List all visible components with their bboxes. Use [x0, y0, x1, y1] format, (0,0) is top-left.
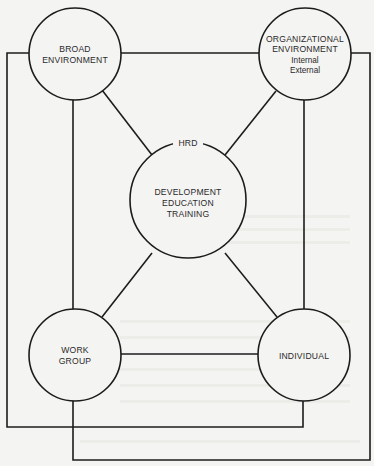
node-hrd-line1: DEVELOPMENT — [154, 187, 222, 197]
node-hrd: HRD DEVELOPMENT EDUCATION TRAINING — [130, 136, 246, 258]
node-organizational-environment: ORGANIZATIONAL ENVIRONMENT Internal Exte… — [259, 8, 351, 100]
node-broad-environment: BROAD ENVIRONMENT — [29, 8, 121, 100]
node-hrd-line3: TRAINING — [167, 209, 210, 219]
node-workgroup-line1: WORK — [61, 345, 89, 355]
node-org-line1: ORGANIZATIONAL — [266, 34, 344, 44]
node-work-group: WORK GROUP — [29, 309, 121, 401]
hrd-diagram: BROAD ENVIRONMENT ORGANIZATIONAL ENVIRON… — [0, 0, 374, 466]
edge-org-hrd — [225, 91, 276, 155]
node-workgroup-circle — [29, 309, 121, 401]
edge-hrd-workgroup — [102, 253, 152, 317]
node-hrd-label: HRD — [178, 138, 197, 148]
edge-org-workgroup-outer — [73, 53, 370, 460]
node-broad-line1: BROAD — [59, 44, 91, 54]
node-broad-circle — [29, 8, 121, 100]
node-org-sub2: External — [290, 66, 320, 75]
node-workgroup-line2: GROUP — [59, 356, 92, 366]
node-hrd-line2: EDUCATION — [162, 198, 214, 208]
node-org-sub1: Internal — [291, 56, 318, 65]
node-org-circle — [259, 8, 351, 100]
node-broad-line2: ENVIRONMENT — [42, 55, 108, 65]
edge-broad-hrd — [102, 90, 152, 155]
node-org-line2: ENVIRONMENT — [272, 44, 338, 54]
node-individual: INDIVIDUAL — [258, 309, 350, 401]
node-individual-line1: INDIVIDUAL — [279, 351, 329, 361]
edge-hrd-individual — [225, 253, 277, 317]
